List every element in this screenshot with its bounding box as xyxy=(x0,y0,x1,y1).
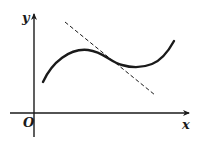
y-axis-label: y xyxy=(21,10,31,25)
origin-label: O xyxy=(23,115,35,130)
x-axis-label: x xyxy=(181,117,190,132)
function-graph: y O x xyxy=(0,0,201,145)
function-curve xyxy=(43,41,174,82)
